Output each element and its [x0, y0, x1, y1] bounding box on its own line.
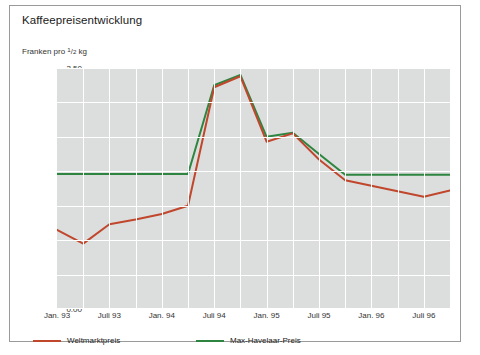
horizontal-gridline [57, 68, 450, 69]
legend-label: Max-Havelaar-Preis [230, 336, 301, 345]
vertical-gridline [371, 68, 372, 309]
legend-swatch-line [33, 340, 61, 342]
plot-area [57, 68, 450, 309]
vertical-gridline [240, 68, 241, 309]
x-tick-label: Juli 94 [203, 311, 226, 320]
horizontal-gridline [57, 240, 450, 241]
x-tick-label: Juli 93 [98, 311, 121, 320]
y-axis-label-unit: kg [76, 47, 87, 56]
x-axis-tick-labels: Jan. 93Juli 93Jan. 94Juli 94Jan. 95Juli … [57, 311, 450, 325]
horizontal-gridline [57, 308, 450, 309]
vertical-gridline [293, 68, 294, 309]
vertical-gridline [424, 68, 425, 309]
y-axis-label-prefix: Franken pro [22, 47, 67, 56]
x-tick-label: Jan. 94 [149, 311, 175, 320]
vertical-gridline [345, 68, 346, 309]
horizontal-gridline [57, 206, 450, 207]
vertical-gridline [450, 68, 451, 309]
x-tick-label: Juli 95 [307, 311, 330, 320]
chart-lines [57, 68, 450, 309]
vertical-gridline [83, 68, 84, 309]
horizontal-gridline [57, 102, 450, 103]
y-axis-label: Franken pro 1/2 kg [22, 46, 87, 56]
vertical-gridline [214, 68, 215, 309]
vertical-gridline [109, 68, 110, 309]
series-line-max-havelaar-preis [57, 75, 450, 175]
vertical-gridline [319, 68, 320, 309]
legend-label: Weltmarktpreis [67, 336, 120, 345]
legend-item: Max-Havelaar-Preis [196, 336, 301, 345]
x-tick-label: Juli 96 [412, 311, 435, 320]
horizontal-gridline [57, 137, 450, 138]
horizontal-gridline [57, 275, 450, 276]
x-tick-label: Jan. 96 [358, 311, 384, 320]
fraction-numerator: 1 [67, 46, 70, 53]
y-axis-label-fraction: 1/2 [67, 47, 76, 56]
plot-area-wrapper: 0.000.501.001.502.002.503.003.50 [48, 61, 450, 309]
legend-item: Weltmarktpreis [33, 336, 120, 345]
vertical-gridline [398, 68, 399, 309]
legend-swatch-line [196, 340, 224, 342]
vertical-gridline [136, 68, 137, 309]
vertical-gridline [267, 68, 268, 309]
horizontal-gridline [57, 171, 450, 172]
chart-frame: Kaffeepreisentwicklung Franken pro 1/2 k… [9, 5, 461, 342]
vertical-gridline [188, 68, 189, 309]
vertical-gridline [162, 68, 163, 309]
chart-title: Kaffeepreisentwicklung [22, 14, 142, 26]
x-tick-label: Jan. 93 [44, 311, 70, 320]
x-tick-label: Jan. 95 [253, 311, 279, 320]
